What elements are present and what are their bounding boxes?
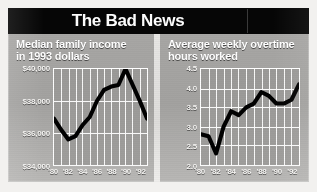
- x-tick-label: '84: [77, 167, 87, 176]
- chart-panel-median-family-income: Median family income in 1993 dollars $40…: [8, 34, 154, 182]
- title-banner: The Bad News: [8, 8, 309, 34]
- x-tick-label: '86: [92, 167, 102, 176]
- y-tick-label: $36,000: [22, 129, 50, 138]
- y-tick-label: 4.0: [186, 83, 197, 92]
- infographic-plate: The Bad News Median family income in 199…: [8, 8, 309, 182]
- y-axis-labels-right: 4.54.03.53.02.52.0: [160, 68, 197, 166]
- y-tick-label: 4.5: [186, 64, 197, 73]
- line-chart-average-weekly-overtime: [201, 69, 299, 165]
- plot-area-median-family-income: [53, 68, 148, 166]
- chart-title-median-family-income: Median family income in 1993 dollars: [16, 39, 126, 62]
- x-tick-label: '88: [107, 167, 117, 176]
- plot-area-average-weekly-overtime: [200, 68, 300, 166]
- banner-divider: [247, 9, 248, 33]
- x-tick-label: '80: [195, 167, 205, 176]
- x-tick-label: '88: [257, 167, 267, 176]
- x-tick-label: '82: [63, 167, 73, 176]
- x-axis-labels-left: '80'82'84'86'88'90'92: [53, 167, 148, 179]
- y-tick-label: 3.5: [186, 103, 197, 112]
- line-chart-median-family-income: [54, 69, 147, 165]
- y-tick-label: 2.5: [186, 142, 197, 151]
- x-tick-label: '86: [241, 167, 251, 176]
- y-axis-labels-left: $40,000$38,000$36,000$34,000: [8, 68, 50, 166]
- y-tick-label: 3.0: [186, 122, 197, 131]
- x-tick-label: '92: [287, 167, 297, 176]
- page-title: The Bad News: [8, 8, 248, 34]
- data-series-line: [201, 84, 299, 153]
- x-tick-label: '80: [48, 167, 58, 176]
- x-tick-label: '90: [272, 167, 282, 176]
- x-tick-label: '92: [136, 167, 146, 176]
- y-tick-label: $40,000: [22, 64, 50, 73]
- x-tick-label: '84: [226, 167, 236, 176]
- infographic-figure: The Bad News Median family income in 199…: [0, 0, 317, 192]
- y-tick-label: $38,000: [22, 96, 50, 105]
- chart-title-average-weekly-overtime: Average weekly overtime hours worked: [168, 39, 294, 62]
- x-tick-label: '82: [210, 167, 220, 176]
- chart-panel-average-weekly-overtime: Average weekly overtime hours worked 4.5…: [160, 34, 309, 182]
- x-axis-labels-right: '80'82'84'86'88'90'92: [200, 167, 300, 179]
- x-tick-label: '90: [121, 167, 131, 176]
- y-tick-label: $34,000: [22, 162, 50, 171]
